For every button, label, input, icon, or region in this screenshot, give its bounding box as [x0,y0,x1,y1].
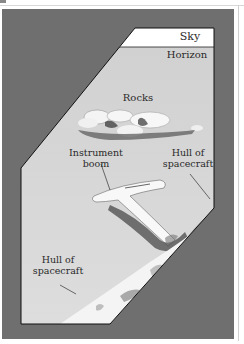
label-hull-left-line2: spacecraft [30,265,86,276]
label-instrument-boom-line1: Instrument [66,147,126,158]
label-rocks: Rocks [118,92,158,103]
label-sky: Sky [170,31,210,42]
label-hull-left-line1: Hull of [30,254,86,265]
label-hull-right-line2: spacecraft [160,158,216,169]
label-hull-right-line1: Hull of [160,147,216,158]
label-horizon: Horizon [160,49,214,60]
label-instrument-boom-line2: boom [66,158,126,169]
